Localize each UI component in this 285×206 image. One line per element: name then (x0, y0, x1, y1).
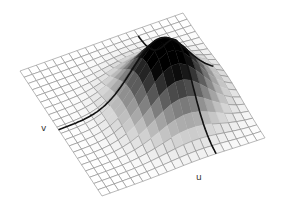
surface-svg (0, 0, 285, 206)
v-axis-label: v (41, 123, 46, 133)
u-axis-label: u (196, 172, 202, 182)
surface-plot: v u (0, 0, 285, 206)
